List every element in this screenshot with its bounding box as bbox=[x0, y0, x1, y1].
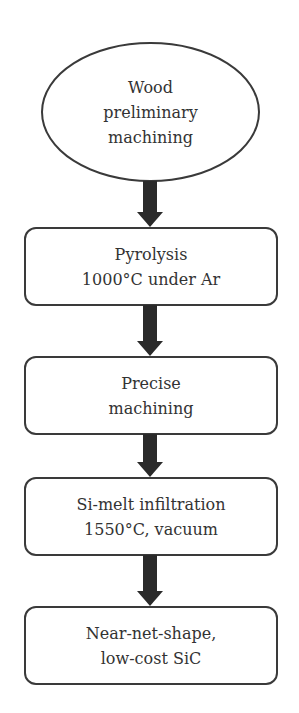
node-label: machining bbox=[108, 125, 193, 150]
arrow-down-icon bbox=[136, 181, 164, 228]
node-label: preliminary bbox=[103, 100, 197, 125]
node-label: 1000°C under Ar bbox=[82, 267, 220, 292]
node-label: Precise bbox=[121, 371, 181, 396]
arrow-down-icon bbox=[136, 434, 164, 478]
flowchart: Wood preliminary machining Pyrolysis 100… bbox=[0, 0, 299, 713]
node-label: Near-net-shape, bbox=[86, 621, 217, 646]
node-wood-preliminary-machining: Wood preliminary machining bbox=[41, 42, 260, 182]
node-precise-machining: Precise machining bbox=[24, 356, 278, 435]
node-label: Wood bbox=[128, 75, 173, 100]
node-near-net-shape-sic: Near-net-shape, low-cost SiC bbox=[24, 606, 278, 685]
node-pyrolysis: Pyrolysis 1000°C under Ar bbox=[24, 227, 278, 306]
node-label: low-cost SiC bbox=[101, 646, 202, 671]
arrow-down-icon bbox=[136, 555, 164, 607]
node-label: machining bbox=[108, 396, 193, 421]
node-label: 1550°C, vacuum bbox=[84, 517, 218, 542]
node-label: Si-melt infiltration bbox=[76, 492, 225, 517]
node-si-melt-infiltration: Si-melt infiltration 1550°C, vacuum bbox=[24, 477, 278, 556]
node-label: Pyrolysis bbox=[115, 242, 188, 267]
arrow-down-icon bbox=[136, 305, 164, 357]
